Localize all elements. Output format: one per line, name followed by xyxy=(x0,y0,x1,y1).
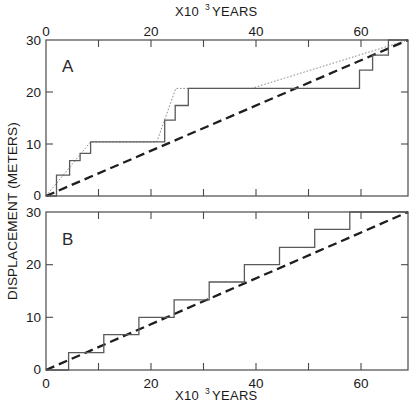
panel-b-letter: B xyxy=(62,230,73,249)
top-tick-label-0: 0 xyxy=(42,24,50,39)
bottom-axis-title: X10 3 YEARS xyxy=(175,386,258,402)
top-axis-title-main: X10 xyxy=(175,4,199,19)
panel-b-y-label-0: 0 xyxy=(33,362,41,377)
panel-b-right-ticks xyxy=(401,265,408,318)
panel-b-y-label-30: 30 xyxy=(26,205,41,220)
top-tick-label-40: 40 xyxy=(248,24,263,39)
top-axis-tick-labels: 0 20 40 60 xyxy=(42,24,368,39)
panel-a-letter: A xyxy=(62,57,74,76)
panel-b-top-ticks xyxy=(99,212,362,219)
panel-a-y-label-0: 0 xyxy=(33,188,41,203)
displacement-vs-time-figure: X10 3 YEARS 0 20 40 60 DISPLACEMENT (MET… xyxy=(0,0,419,402)
top-axis-title-superscript: 3 xyxy=(205,2,210,12)
top-axis-title: X10 3 YEARS xyxy=(175,2,258,19)
panel-a-y-label-20: 20 xyxy=(26,85,41,100)
panel-b-y-label-20: 20 xyxy=(26,257,41,272)
y-axis-title: DISPLACEMENT (METERS) xyxy=(5,122,20,300)
panel-b-bottom-ticks xyxy=(99,363,362,370)
panel-a-right-ticks xyxy=(401,92,408,144)
bottom-axis-title-main: X10 xyxy=(175,388,199,402)
panel-b-left-ticks xyxy=(46,265,53,318)
bottom-axis-title-superscript: 3 xyxy=(205,386,210,396)
panel-a-y-label-30: 30 xyxy=(26,33,41,48)
panel-b-y-tick-labels: 30 20 10 0 xyxy=(26,205,41,377)
panel-a-left-ticks xyxy=(46,92,53,144)
figure-container: X10 3 YEARS 0 20 40 60 DISPLACEMENT (MET… xyxy=(0,0,419,402)
top-tick-label-60: 60 xyxy=(353,24,368,39)
panel-a: 30 20 10 0 A xyxy=(26,33,408,203)
panel-b-average-rate-line xyxy=(46,212,408,370)
bottom-tick-label-0: 0 xyxy=(42,376,50,391)
bottom-tick-label-60: 60 xyxy=(353,376,368,391)
panel-b: 30 20 10 0 B xyxy=(26,205,408,377)
panel-a-average-rate-line xyxy=(46,40,408,196)
panel-b-y-label-10: 10 xyxy=(26,310,41,325)
panel-a-bottom-ticks xyxy=(99,189,362,196)
panel-a-y-tick-labels: 30 20 10 0 xyxy=(26,33,41,203)
panel-a-y-label-10: 10 xyxy=(26,137,41,152)
top-tick-label-20: 20 xyxy=(143,24,158,39)
bottom-tick-label-20: 20 xyxy=(143,376,158,391)
top-axis-title-tail: YEARS xyxy=(212,4,258,19)
bottom-axis-title-tail: YEARS xyxy=(212,388,258,402)
panel-a-top-ticks xyxy=(99,40,362,47)
